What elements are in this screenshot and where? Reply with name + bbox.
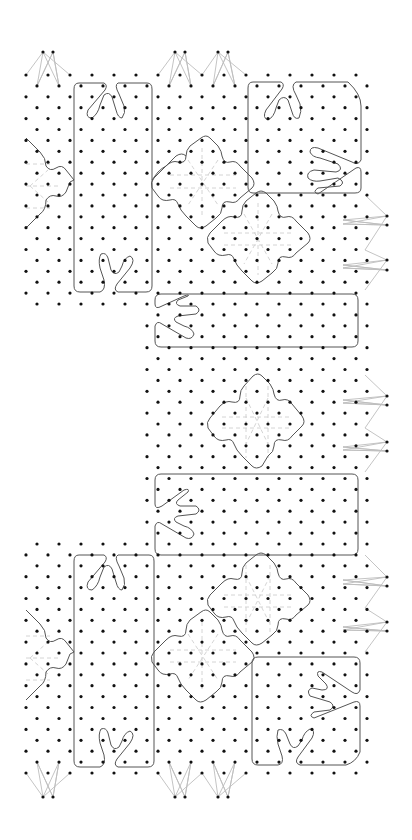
pin-dot [321, 172, 324, 175]
pin-dot [134, 706, 137, 709]
pin-dot [57, 542, 60, 545]
foot-top-left-dot [41, 50, 44, 53]
pin-dot [299, 433, 302, 436]
pin-dot [123, 586, 126, 589]
pin-dot [156, 357, 159, 360]
pin-dot [200, 662, 203, 665]
pin-dot [101, 302, 104, 305]
pin-dot [255, 542, 258, 545]
pin-dot [255, 499, 258, 502]
pin-dot [167, 499, 170, 502]
pin-dot [365, 412, 368, 415]
pin-dot [101, 84, 104, 87]
pin-dot [211, 106, 214, 109]
pin-dot [112, 161, 115, 164]
pin-dot [244, 95, 247, 98]
pin-dot [79, 761, 82, 764]
pin-dot [57, 150, 60, 153]
pin-dot [101, 193, 104, 196]
pin-dot [134, 117, 137, 120]
pin-dot [354, 401, 357, 404]
pin-dot [299, 499, 302, 502]
pin-dot [277, 651, 280, 654]
pin-dot [255, 150, 258, 153]
pin-dot [233, 324, 236, 327]
foot-top-left-thread [26, 52, 70, 86]
pin-dot [24, 117, 27, 120]
pin-dot [310, 357, 313, 360]
pin-dot [46, 728, 49, 731]
pin-dot [68, 204, 71, 207]
pin-dot [332, 183, 335, 186]
side-lobe-bottom-left [26, 610, 74, 700]
pin-dot [310, 466, 313, 469]
pin-dot [167, 84, 170, 87]
pin-dot [189, 433, 192, 436]
pin-dot [24, 95, 27, 98]
pin-dot [222, 73, 225, 76]
pin-dot [299, 215, 302, 218]
pin-dot [156, 292, 159, 295]
pin-dot [255, 608, 258, 611]
pin-dot [145, 542, 148, 545]
pin-dot [200, 335, 203, 338]
pin-dot [134, 95, 137, 98]
pin-dot [222, 662, 225, 665]
pin-dot [46, 662, 49, 665]
pin-dot [244, 204, 247, 207]
pin-dot [310, 401, 313, 404]
pin-dot [332, 95, 335, 98]
pin-dot [156, 313, 159, 316]
pin-dot [354, 532, 357, 535]
pin-dot [200, 204, 203, 207]
pin-dot [233, 193, 236, 196]
pin-dot [365, 84, 368, 87]
pin-dot [189, 564, 192, 567]
panel-bottom-left-tall [74, 555, 154, 767]
pin-dot [288, 117, 291, 120]
pin-dot [255, 324, 258, 327]
pin-dot [112, 226, 115, 229]
pin-dot [145, 695, 148, 698]
pin-dot [46, 706, 49, 709]
pin-dot [101, 630, 104, 633]
pin-dot [57, 564, 60, 567]
pin-dot [101, 608, 104, 611]
pin-dot [365, 564, 368, 567]
pin-dot [90, 161, 93, 164]
pin-dot [266, 248, 269, 251]
pin-dot [343, 84, 346, 87]
pin-dot [288, 684, 291, 687]
pin-dot [200, 488, 203, 491]
pin-dot [266, 510, 269, 513]
pin-dot [277, 150, 280, 153]
pin-dot [288, 641, 291, 644]
pin-dot [200, 73, 203, 76]
pin-dot [321, 390, 324, 393]
pin-dot [321, 499, 324, 502]
pin-dot [321, 215, 324, 218]
foot-right-4-dot [385, 449, 388, 452]
pin-dot [299, 237, 302, 240]
pin-dot [233, 542, 236, 545]
pin-dot [288, 575, 291, 578]
pin-dot [277, 695, 280, 698]
pin-dot [299, 281, 302, 284]
pin-dot [354, 183, 357, 186]
pin-dot [167, 172, 170, 175]
pin-dot [321, 586, 324, 589]
pin-dot [79, 172, 82, 175]
pin-dot [112, 183, 115, 186]
pin-dot [321, 433, 324, 436]
pin-dot [178, 226, 181, 229]
pin-dot [244, 139, 247, 142]
pin-dot [288, 183, 291, 186]
pin-dot [189, 412, 192, 415]
pin-dot [222, 532, 225, 535]
pin-dot [244, 444, 247, 447]
pin-dot [288, 401, 291, 404]
pin-dot [200, 575, 203, 578]
pin-dot [211, 412, 214, 415]
pin-dot [156, 204, 159, 207]
pin-dot [332, 73, 335, 76]
